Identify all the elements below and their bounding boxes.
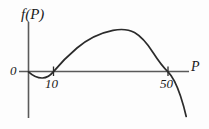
x-axis-label: P	[191, 60, 200, 74]
x-tick-label-50: 50	[160, 77, 173, 90]
y-axis-label: f(P)	[21, 7, 44, 22]
figure-container: f(P) P 0 10 50	[0, 0, 209, 129]
x-tick-label-10: 10	[45, 77, 58, 90]
origin-label: 0	[10, 64, 17, 77]
